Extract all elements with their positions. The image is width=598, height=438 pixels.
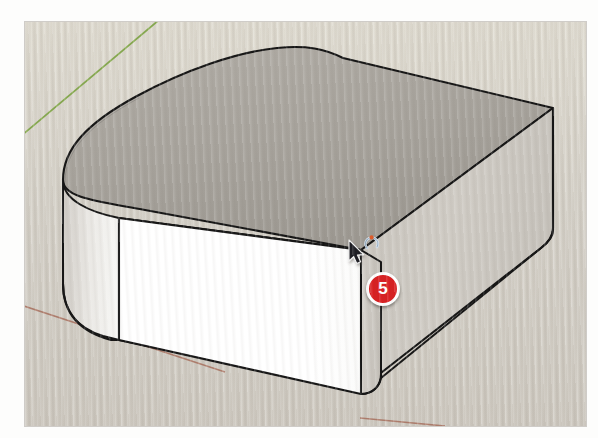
front-face-panel[interactable] — [119, 218, 361, 394]
page-canvas: 5 — [0, 0, 598, 438]
rounded-box-model[interactable] — [63, 47, 553, 394]
sketchup-viewport[interactable]: 5 — [25, 22, 586, 426]
step-callout-5[interactable]: 5 — [366, 272, 400, 306]
model-scene[interactable] — [25, 22, 586, 426]
red-axis-line-right — [360, 418, 445, 426]
